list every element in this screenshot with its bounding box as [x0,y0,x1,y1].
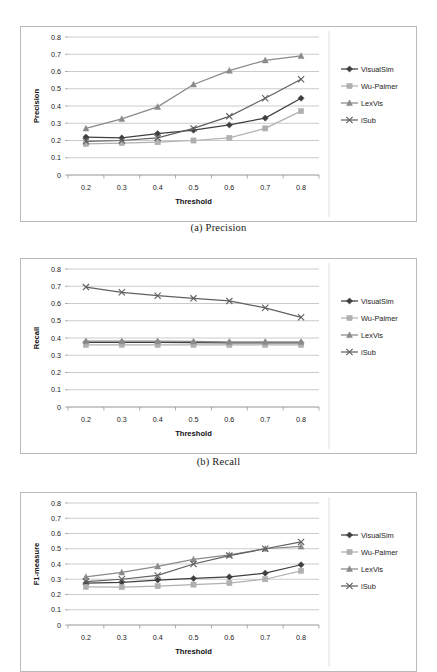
precision-chart-frame: 00.10.20.30.40.50.60.70.80.20.30.40.50.6… [20,26,417,222]
legend-label: VisualSim [361,65,394,74]
legend-item[interactable]: iSub [341,348,376,357]
caption-b: (b) Recall [0,456,437,467]
series-line [86,56,301,128]
legend-label: VisualSim [361,297,394,306]
legend-item[interactable]: LexVis [341,331,383,340]
data-point-marker [190,575,196,581]
data-point-marker [262,95,268,101]
x-tick-label: 0.4 [153,633,163,642]
legend-item[interactable]: LexVis [341,565,383,574]
data-point-marker [155,104,161,110]
x-tick-label: 0.7 [260,183,270,192]
data-point-marker [262,115,268,121]
y-tick-label: 0.5 [51,316,61,325]
data-point-marker [155,584,160,589]
x-tick-label: 0.8 [296,633,306,642]
legend-item[interactable]: LexVis [341,99,383,108]
f1-measure-chart: 00.10.20.30.40.50.60.70.80.20.30.40.50.6… [21,493,416,671]
data-point-marker [262,570,268,576]
x-tick-label: 0.8 [296,183,306,192]
x-tick-label: 0.3 [117,183,127,192]
y-tick-label: 0.6 [51,299,61,308]
legend-item[interactable]: Wu-Palmer [341,314,398,323]
legend-item[interactable]: iSub [341,116,376,125]
y-tick-label: 0.2 [51,368,61,377]
legend-label: Wu-Palmer [361,548,398,557]
y-axis-title: F1-measure [32,543,41,586]
x-tick-label: 0.8 [296,415,306,424]
x-tick-label: 0.7 [260,415,270,424]
x-axis-title: Threshold [175,647,212,656]
x-tick-label: 0.2 [81,183,91,192]
legend-item[interactable]: VisualSim [341,531,394,540]
x-tick-label: 0.2 [81,633,91,642]
y-tick-label: 0.5 [51,544,61,553]
legend-item[interactable]: iSub [341,582,376,591]
x-tick-label: 0.6 [224,633,234,642]
x-axis-title: Threshold [175,429,212,438]
y-tick-label: 0.8 [51,499,61,508]
x-tick-label: 0.7 [260,633,270,642]
x-tick-label: 0.4 [153,415,163,424]
x-axis-title: Threshold [175,197,212,206]
data-point-marker [83,584,88,589]
y-tick-label: 0.7 [51,50,61,59]
legend-label: VisualSim [361,531,394,540]
data-point-marker [298,562,304,568]
y-tick-label: 0.4 [51,102,61,111]
y-tick-label: 0.3 [51,119,61,128]
data-point-marker [119,585,124,590]
legend-item[interactable]: VisualSim [341,297,394,306]
f1-chart-frame: 00.10.20.30.40.50.60.70.80.20.30.40.50.6… [20,492,417,672]
data-point-marker [263,126,268,131]
y-tick-label: 0.1 [51,605,61,614]
legend-item[interactable]: Wu-Palmer [341,82,398,91]
data-point-marker [263,577,268,582]
data-point-marker [298,76,304,82]
y-tick-label: 0.8 [51,265,61,274]
x-tick-label: 0.4 [153,183,163,192]
recall-figure: 00.10.20.30.40.50.60.70.80.20.30.40.50.6… [0,258,437,454]
data-point-marker [298,568,303,573]
x-tick-label: 0.3 [117,415,127,424]
y-tick-label: 0 [57,621,61,630]
legend-label: LexVis [361,99,383,108]
legend-label: iSub [361,582,376,591]
y-tick-label: 0.1 [51,385,61,394]
data-point-marker [298,109,303,114]
legend-label: Wu-Palmer [361,314,398,323]
y-tick-label: 0.5 [51,84,61,93]
legend-label: iSub [361,116,376,125]
data-point-marker [191,138,196,143]
y-tick-label: 0.1 [51,153,61,162]
recall-chart-frame: 00.10.20.30.40.50.60.70.80.20.30.40.50.6… [20,258,417,454]
y-tick-label: 0 [57,171,61,180]
caption-a: (a) Precision [0,222,437,233]
precision-chart: 00.10.20.30.40.50.60.70.80.20.30.40.50.6… [21,27,416,221]
y-tick-label: 0.8 [51,33,61,42]
x-tick-label: 0.3 [117,633,127,642]
x-tick-label: 0.6 [224,415,234,424]
y-tick-label: 0.2 [51,136,61,145]
y-tick-label: 0.3 [51,351,61,360]
y-tick-label: 0.4 [51,560,61,569]
f1-figure: 00.10.20.30.40.50.60.70.80.20.30.40.50.6… [0,492,437,672]
legend-label: Wu-Palmer [361,82,398,91]
y-tick-label: 0.6 [51,67,61,76]
y-tick-label: 0.4 [51,334,61,343]
legend-label: LexVis [361,565,383,574]
y-axis-title: Recall [32,327,41,349]
y-tick-label: 0.7 [51,282,61,291]
legend-item[interactable]: Wu-Palmer [341,548,398,557]
legend-item[interactable]: VisualSim [341,65,394,74]
y-tick-label: 0.7 [51,514,61,523]
data-point-marker [191,582,196,587]
x-tick-label: 0.5 [189,415,199,424]
data-point-marker [298,95,304,101]
y-tick-label: 0.6 [51,529,61,538]
precision-figure: 00.10.20.30.40.50.60.70.80.20.30.40.50.6… [0,26,437,222]
data-point-marker [226,113,232,119]
x-tick-label: 0.5 [189,633,199,642]
y-tick-label: 0.2 [51,590,61,599]
